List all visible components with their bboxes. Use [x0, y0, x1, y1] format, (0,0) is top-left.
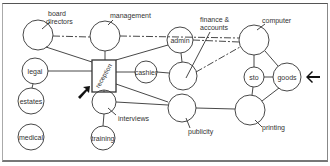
edge-finance-computer: [196, 47, 240, 72]
edge-admin-finance: [181, 53, 182, 62]
node-printing: [235, 95, 265, 125]
label-cashier: cashier: [135, 69, 158, 76]
label-training: training: [92, 135, 115, 143]
label-legal: legal: [28, 68, 43, 76]
label-computer: computer: [262, 17, 292, 25]
label-interviews: interviews: [118, 115, 150, 122]
edge-sto-printing: [252, 87, 253, 95]
node-computer: [239, 25, 269, 55]
edge-interviews-training: [103, 114, 104, 126]
node-management: [90, 21, 120, 51]
edge-goods-printing: [262, 88, 279, 101]
edge-reception-admin: [116, 45, 168, 60]
node-interviews: [92, 90, 116, 114]
label-goods: goods: [277, 74, 297, 82]
label-board: board: [48, 10, 66, 17]
label-management: management: [110, 12, 151, 20]
edge-board-management: [53, 36, 90, 37]
label-admin: admin: [170, 37, 189, 44]
edge-board-reception: [46, 47, 92, 62]
arrow-icon-reception-pointer: [78, 86, 90, 99]
edge-admin-computer: [193, 40, 239, 42]
edge-publicity-printing: [196, 108, 235, 109]
label-printing: printing: [262, 124, 285, 132]
edge-reception-publicity: [116, 84, 168, 102]
edge-computer-goods: [265, 51, 278, 66]
label-publicity: publicity: [188, 128, 214, 136]
arrow-icon-goods-pointer: [306, 71, 320, 83]
label-medical: medical: [19, 134, 44, 141]
node-publicity: [168, 94, 196, 122]
label-accounts: accounts: [200, 24, 229, 31]
edge-interviews-publicity: [116, 102, 168, 105]
label-reception: reception: [94, 62, 114, 89]
label-estates: estates: [20, 98, 43, 105]
edge-legal-estates: [32, 84, 33, 88]
edge-cashier-finance: [157, 72, 169, 73]
label-finance: finance &: [200, 16, 230, 23]
department-network-diagram: board directors management admin finance…: [0, 0, 330, 166]
node-finance: [169, 62, 197, 90]
label-sto: sto: [249, 74, 258, 81]
label-directors: directors: [46, 18, 73, 25]
